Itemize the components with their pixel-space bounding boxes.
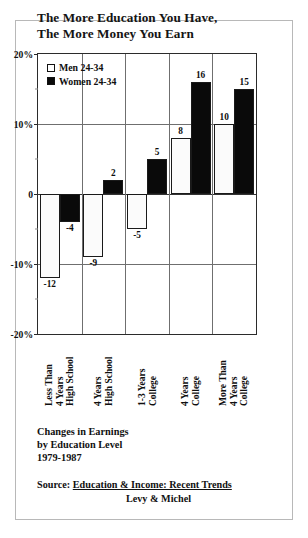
bar-value-label: -5 xyxy=(133,230,141,240)
x-axis-category-line: College xyxy=(239,360,250,406)
bar-value-label: 5 xyxy=(155,147,160,157)
bar-value-label: -4 xyxy=(66,223,74,233)
x-axis-category-line: More Than xyxy=(218,360,229,406)
bar-men-2 xyxy=(127,194,147,229)
y-axis-tick-label: -20% xyxy=(11,329,33,340)
bar-value-label: -9 xyxy=(90,258,98,268)
x-axis-category-line: 4 Years xyxy=(229,360,240,406)
bar-men-4 xyxy=(214,124,234,194)
y-axis-tick-label: 20% xyxy=(14,49,33,60)
x-axis-category-line: Less Than xyxy=(44,357,55,406)
plot-area: 20%10%0-10%-20% -12-9-5810-4251615 Less … xyxy=(37,53,257,335)
chart-legend: Men 24-34 Women 24-34 xyxy=(47,61,116,88)
bar-value-label: 2 xyxy=(111,168,116,178)
bar-value-label: 15 xyxy=(240,77,249,87)
source-authors: Levy & Michel xyxy=(37,492,272,506)
caption-line-2: by Education Level xyxy=(37,438,129,451)
gridline-vertical xyxy=(125,54,126,334)
chart-caption: Changes in Earnings by Education Level 1… xyxy=(37,425,129,464)
source-title: Education & Income: Recent Trends xyxy=(73,479,232,490)
y-axis-tick xyxy=(34,124,38,125)
caption-line-3: 1979-1987 xyxy=(37,451,129,464)
bar-women-0 xyxy=(60,194,80,222)
legend-item-men: Men 24-34 xyxy=(47,61,116,75)
x-axis-category-line: College xyxy=(147,369,158,406)
y-axis-tick xyxy=(34,54,38,55)
y-axis-tick xyxy=(34,194,38,195)
gridline-horizontal xyxy=(38,264,256,265)
legend-item-women: Women 24-34 xyxy=(47,75,116,89)
source-line: Source: Education & Income: Recent Trend… xyxy=(37,478,272,492)
bar-women-3 xyxy=(191,82,211,194)
bar-men-0 xyxy=(40,194,60,278)
y-axis-tick-label: -10% xyxy=(11,259,33,270)
bar-women-1 xyxy=(103,180,123,194)
gridline-vertical xyxy=(169,54,170,334)
bar-women-4 xyxy=(234,89,254,194)
bar-value-label: 8 xyxy=(178,126,183,136)
x-axis-category-line: High School xyxy=(65,357,76,406)
y-axis-tick xyxy=(34,264,38,265)
chart-title: The More Education You Have, The More Mo… xyxy=(37,10,272,41)
gridline-vertical xyxy=(212,54,213,334)
bar-men-1 xyxy=(83,194,103,257)
legend-label-men: Men 24-34 xyxy=(59,61,103,75)
y-axis-tick xyxy=(34,334,38,335)
source-note: Source: Education & Income: Recent Trend… xyxy=(37,478,272,505)
y-axis-minor-tick xyxy=(35,299,38,300)
source-prefix-label: Source: xyxy=(37,479,73,490)
legend-swatch-women-icon xyxy=(47,77,55,85)
legend-swatch-men-icon xyxy=(47,64,55,72)
x-axis-category-line: High School xyxy=(103,357,114,406)
bar-men-3 xyxy=(171,138,191,194)
caption-line-1: Changes in Earnings xyxy=(37,425,129,438)
legend-label-women: Women 24-34 xyxy=(59,75,116,89)
bar-value-label: 10 xyxy=(220,112,229,122)
bar-value-label: -12 xyxy=(44,279,56,289)
y-axis-tick-label: 10% xyxy=(14,119,33,130)
chart-title-line-1: The More Education You Have, xyxy=(37,10,272,26)
x-axis-category-line: 4 Years xyxy=(93,357,104,406)
y-axis-minor-tick xyxy=(35,229,38,230)
y-axis-tick-label: 0 xyxy=(28,189,33,200)
x-axis-category-line: 4 Years xyxy=(180,376,191,406)
bar-women-2 xyxy=(147,159,167,194)
x-axis-category-line: 1-3 Years xyxy=(137,369,148,406)
x-axis-category-line: 4 Years xyxy=(55,357,66,406)
chart-title-line-2: The More Money You Earn xyxy=(37,26,272,42)
y-axis-minor-tick xyxy=(35,89,38,90)
bar-value-label: 16 xyxy=(196,70,205,80)
y-axis-minor-tick xyxy=(35,159,38,160)
x-axis-category-line: College xyxy=(191,376,202,406)
